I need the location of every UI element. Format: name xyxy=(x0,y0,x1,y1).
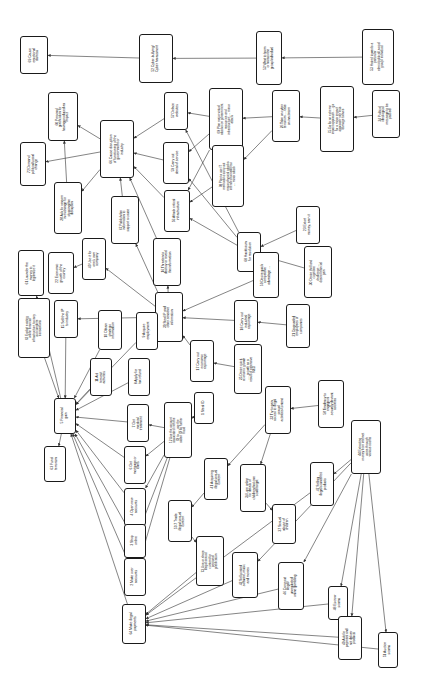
node-label: 34 Lure online for details of children t… xyxy=(246,476,260,500)
diagram-node[interactable]: 24 Political ideological message to be p… xyxy=(372,90,400,138)
node-label: 23 Extort money, earn it xyxy=(304,214,311,236)
diagram-edge xyxy=(214,363,234,367)
diagram-edge xyxy=(134,153,163,160)
diagram-node[interactable]: 63 Fund terrorism xyxy=(44,446,66,482)
node-label: 33 Try to gain access to illegal sexual … xyxy=(271,398,285,422)
diagram-node[interactable]: 59 Desire quick competitive advantage ..… xyxy=(253,252,279,298)
diagram-node[interactable]: 51 Auction scams xyxy=(378,632,398,668)
diagram-node[interactable]: 25 Desire quick economic growth .... gro… xyxy=(234,344,262,394)
diagram-node[interactable]: 2 Make over accounts xyxy=(124,558,146,596)
diagram-node[interactable]: 6 Get mortgage or loans xyxy=(124,446,146,484)
diagram-node[interactable]: 18 Carry out industrial espionage xyxy=(234,300,258,342)
node-label: 12 Use the account associated with the I… xyxy=(170,417,186,443)
diagram-edge xyxy=(190,218,237,245)
diagram-node[interactable]: 39 Steal IP and other sensitive informat… xyxy=(155,292,183,342)
diagram-edge xyxy=(341,474,361,586)
diagram-node[interactable]: 53 Hatred towards a particular ethnic/po… xyxy=(362,29,394,85)
diagram-node[interactable]: 22 Economic growth of the country xyxy=(48,252,74,294)
diagram-node[interactable]: 11 Aid terrorist activities xyxy=(90,358,112,396)
diagram-edge xyxy=(146,589,278,621)
diagram-node[interactable]: 23 Extort money, earn it xyxy=(296,206,320,244)
diagram-node[interactable]: 1 Steal ID xyxy=(194,392,214,424)
diagram-node[interactable]: 30 Desire thrill and cognitive challenge… xyxy=(304,246,332,298)
diagram-node[interactable]: 40 Use it for one's own company xyxy=(82,238,106,280)
diagram-edge xyxy=(65,338,66,398)
diagram-node[interactable]: 56 Attack critical infrastructure xyxy=(164,190,190,232)
diagram-edge xyxy=(134,119,164,138)
diagram-node[interactable]: 67 Publish the information to support a … xyxy=(111,196,139,244)
node-label: 40 Use it for one's own company xyxy=(89,248,100,270)
node-label: 66 Cause disruption of functioning of th… xyxy=(110,133,124,165)
node-label: 52 Cyber-bullying/ Cyber harassment xyxy=(152,43,159,75)
diagram-edge xyxy=(352,474,364,616)
diagram-node[interactable]: 57 Deface websites xyxy=(164,92,188,130)
diagram-edge xyxy=(183,318,234,321)
diagram-node[interactable]: 60 Personal gratification for having pro… xyxy=(48,92,78,141)
diagram-edge xyxy=(120,178,122,196)
diagram-canvas: 69 Cause emotional distress52 Cyber-bull… xyxy=(0,0,422,677)
diagram-edge xyxy=(261,231,296,247)
diagram-node[interactable]: 44 Extracting money from internet users … xyxy=(351,420,381,474)
node-label: 73 Use or share illegal sexual content f… xyxy=(202,548,219,574)
diagram-edge xyxy=(76,430,124,492)
diagram-node[interactable]: 50 7 Trade illegal sexual content xyxy=(168,500,192,542)
node-label: 16 Threaten to destroy or reveal the inf… xyxy=(162,249,172,275)
diagram-node[interactable]: 10 Obtain strategic information xyxy=(98,310,122,350)
node-label: 69 Cause emotional distress xyxy=(29,42,40,68)
diagram-edge xyxy=(64,141,66,182)
node-label: 59 Desire quick competitive advantage ..… xyxy=(261,263,271,287)
diagram-edge xyxy=(76,424,124,458)
diagram-node[interactable]: 64 Make illegal payments xyxy=(122,604,146,644)
diagram-node[interactable]: 72 Demand political/social change xyxy=(20,142,46,186)
diagram-node[interactable]: 59 Carry out denial of service xyxy=(163,142,189,184)
diagram-node[interactable]: 8 Apply for tax refund xyxy=(128,358,150,396)
node-label: 50 7 Trade illegal sexual content xyxy=(175,510,186,532)
node-label: 68 Hacktivism for resolution xyxy=(245,241,252,263)
diagram-node[interactable]: 9 Acquire employment xyxy=(136,312,158,350)
diagram-node[interactable]: 7 Get medical treatment xyxy=(127,404,149,442)
diagram-node[interactable]: 3 Shop online xyxy=(124,524,146,558)
node-label: 3 Shop online xyxy=(131,531,138,551)
diagram-node[interactable]: 49 Ask for payment and not deliver produ… xyxy=(338,616,362,660)
diagram-node[interactable]: 75 Go for an extreme impact approach ...… xyxy=(320,86,354,152)
diagram-node[interactable]: 21 Disgruntled employees of companies xyxy=(286,304,310,348)
diagram-node[interactable]: 28 Ask for ransom in exchange for stoppi… xyxy=(54,182,82,234)
diagram-node[interactable]: 61 Launder the money to legitimize it xyxy=(18,250,44,296)
diagram-node[interactable]: 48 Escrow scams xyxy=(328,586,348,620)
diagram-node[interactable]: 53 Want to harm or harass the group/indi… xyxy=(256,31,282,85)
diagram-node[interactable]: 66 Cause disruption of functioning of th… xyxy=(100,120,134,178)
diagram-node[interactable]: 52 Cyber-bullying/ Cyber harassment xyxy=(139,34,173,83)
node-label: 26 Take on cyber terrorism .... take on … xyxy=(281,103,291,129)
node-label: 53 Hatred towards a particular ethnic/po… xyxy=(371,42,384,72)
diagram-edge xyxy=(106,268,155,306)
diagram-node[interactable]: 69 Plan major virtual attacks on governm… xyxy=(209,88,243,150)
diagram-edge xyxy=(282,57,362,58)
diagram-node[interactable]: 15 Sell the IP to industry xyxy=(54,300,78,338)
diagram-node[interactable]: 62 Exploit existing online financial inf… xyxy=(18,298,50,358)
diagram-node[interactable]: 16 Threaten to destroy or reveal the inf… xyxy=(153,238,181,286)
diagram-node[interactable]: 4 Open new accounts xyxy=(124,488,146,526)
diagram-node[interactable]: 69 Cause emotional distress xyxy=(20,36,48,74)
diagram-node[interactable]: 17 Carry out economic espionage xyxy=(190,340,214,382)
diagram-edge xyxy=(369,474,386,632)
node-label: 6 Get mortgage or loans xyxy=(130,455,141,475)
node-label: 67 Publish the information to support a … xyxy=(120,207,130,233)
diagram-node[interactable]: 46 Carry out illegal/ unregulated online… xyxy=(278,562,304,610)
diagram-node[interactable]: 70 Plan to use IT methods to carry out m… xyxy=(212,145,244,207)
diagram-edge xyxy=(261,434,271,464)
diagram-node[interactable]: 42 Sell pirated software, music and movi… xyxy=(232,552,258,598)
diagram-node[interactable]: 33 Try to gain access to illegal sexual … xyxy=(265,386,291,434)
diagram-edge xyxy=(74,264,82,267)
diagram-edge xyxy=(75,434,125,524)
diagram-node[interactable]: 73 Use or share illegal sexual content f… xyxy=(196,536,224,586)
diagram-node[interactable]: 12 Use the account associated with the I… xyxy=(164,402,192,458)
diagram-node[interactable]: 41 Acquiring illegal sexual content xyxy=(204,458,228,500)
diagram-node[interactable]: 37 Sexual abuse of children xyxy=(272,504,296,544)
diagram-node[interactable]: 58 Tendency to engage in sexually devian… xyxy=(318,380,344,428)
diagram-node[interactable]: 34 Lure online for details of children t… xyxy=(240,464,266,512)
diagram-node[interactable]: 47 Selling illegal/counterfeit products xyxy=(310,462,334,506)
diagram-node[interactable]: 5 Financial gain xyxy=(54,398,76,434)
diagram-node[interactable]: 26 Take on cyber terrorism .... take on … xyxy=(272,90,300,142)
node-label: 18 Carry out industrial espionage xyxy=(241,310,252,332)
node-label: 1 Steal ID xyxy=(202,399,206,417)
